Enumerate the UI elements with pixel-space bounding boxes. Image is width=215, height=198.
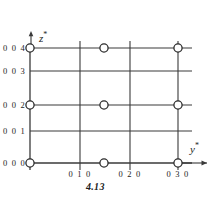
z-axis-arrow <box>29 31 34 45</box>
data-point-marker <box>100 159 108 167</box>
y-tick-label-002: 0 0 2 <box>0 101 26 110</box>
right-arrow-icon <box>202 161 208 166</box>
data-point-marker <box>100 101 108 109</box>
y-tick-label-000: 0 0 0 <box>0 159 26 168</box>
data-point-marker <box>174 101 182 109</box>
up-arrow-icon <box>29 31 34 36</box>
y-axis-star: * <box>195 141 199 150</box>
data-point-marker <box>174 44 182 52</box>
data-point-marker <box>26 44 34 52</box>
data-point-marker <box>174 159 182 167</box>
y-tick-label-001: 0 0 1 <box>0 127 26 136</box>
data-point-marker <box>100 44 108 52</box>
data-point-marker <box>26 101 34 109</box>
x-tick-label-030: 0 3 0 <box>159 170 197 179</box>
horizontal-gridlines <box>30 48 192 163</box>
y-axis-label: y* <box>190 142 199 155</box>
figure-container: 0 0 4 0 0 3 0 0 2 0 0 1 0 0 0 0 1 0 0 2 … <box>0 0 215 198</box>
data-point-marker <box>26 159 34 167</box>
x-tick-label-010: 0 1 0 <box>61 170 99 179</box>
figure-caption: 4.13 <box>86 182 105 192</box>
z-axis-label: z* <box>39 31 47 44</box>
y-tick-label-003: 0 0 3 <box>0 67 26 76</box>
y-tick-label-004: 0 0 4 <box>0 44 26 53</box>
x-tick-label-020: 0 2 0 <box>111 170 149 179</box>
z-axis-star: * <box>43 30 47 39</box>
